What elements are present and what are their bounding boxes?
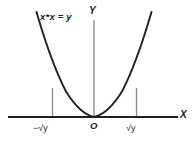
curve-equation-label: x*x = y: [40, 12, 72, 22]
origin-label: O: [90, 121, 97, 131]
x-axis-label: X: [180, 110, 187, 120]
x-tick-label-negative-sqrt-y: −√y: [33, 124, 48, 133]
x-tick-label-positive-sqrt-y: √y: [126, 124, 135, 133]
y-axis-label: Y: [89, 6, 96, 16]
parabola-figure: x*x = y Y X O −√y √y: [0, 0, 193, 152]
